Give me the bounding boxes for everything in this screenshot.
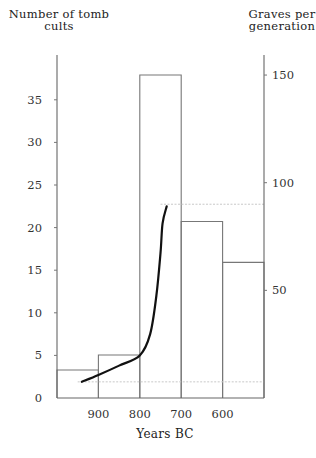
tick-label-right: 150 [272,68,294,82]
tick-label-x: 600 [212,407,234,421]
bar [181,221,222,398]
bar [57,370,98,398]
tick-label-x: 700 [170,407,192,421]
tick-label-right: 50 [272,283,287,297]
tick-label-left: 25 [27,178,42,192]
chart-canvas: 0510152025303550100150900800700600 [0,0,316,458]
tick-label-x: 900 [87,407,109,421]
tick-label-left: 35 [27,93,42,107]
tick-label-x: 800 [129,407,151,421]
bar [98,355,139,398]
bar [223,262,264,398]
tick-label-left: 5 [35,348,42,362]
x-axis-title: Years BC [100,427,230,441]
tick-label-left: 30 [27,135,42,149]
tick-label-left: 10 [27,306,42,320]
axes [54,55,267,398]
tick-label-left: 20 [27,221,42,235]
tick-label-left: 15 [27,263,42,277]
tick-label-right: 100 [272,176,294,190]
tick-label-left: 0 [35,391,42,405]
